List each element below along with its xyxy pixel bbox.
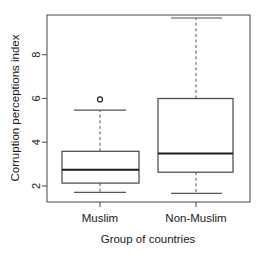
y-tick-label-4: 4 <box>30 139 42 145</box>
y-tick-label-6: 6 <box>30 95 42 101</box>
box-group-non-muslim <box>158 18 233 193</box>
y-axis-title: Corruption perceptions index <box>9 34 21 181</box>
boxplot-figure: 2 4 6 8 Corruption perceptions index Mus… <box>0 0 264 255</box>
box-muslim <box>62 151 139 183</box>
y-tick-label-8: 8 <box>30 52 42 58</box>
box-non-muslim <box>158 99 233 173</box>
boxplot-svg: 2 4 6 8 Corruption perceptions index Mus… <box>0 0 264 255</box>
outlier-point-muslim <box>98 97 103 102</box>
box-group-muslim <box>62 97 139 192</box>
y-tick-label-2: 2 <box>30 183 42 189</box>
x-axis-title: Group of countries <box>101 233 196 245</box>
x-tick-label-non-muslim: Non-Muslim <box>165 212 226 224</box>
x-tick-label-muslim: Muslim <box>82 212 118 224</box>
